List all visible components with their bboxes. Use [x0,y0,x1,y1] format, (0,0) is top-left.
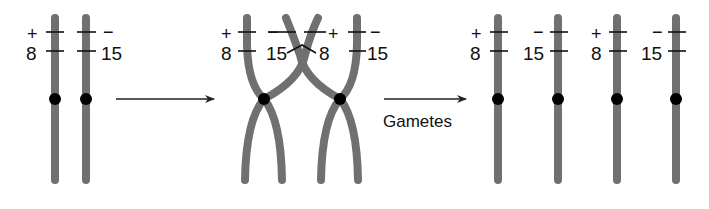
allele-sign: − [268,22,279,42]
centromere-icon [258,93,270,105]
centromere-icon [670,93,682,105]
stage1-homologous-pair: + 8 − 15 [26,18,122,180]
diagram-canvas: + 8 − 15 [0,0,709,209]
locus-label: 8 [470,43,481,64]
allele-sign: + [27,24,38,44]
gamete-chromosome-1: + 8 [470,18,508,180]
locus-label: 15 [367,43,388,64]
allele-sign: − [103,22,114,42]
allele-sign: − [370,22,381,42]
locus-label: 15 [101,43,122,64]
gamete-chromosome-4: − 15 [641,18,686,180]
locus-label: 8 [591,43,602,64]
chromosome-1: + 8 [26,18,64,180]
stage3-gametes: + 8 − 15 + 8 − 15 [470,18,686,180]
allele-sign: + [221,24,232,44]
gamete-chromosome-2: − 15 [523,18,568,180]
locus-label: 8 [26,43,37,64]
centromere-icon [80,93,92,105]
allele-sign: + [591,24,602,44]
arrow-2: Gametes [383,99,466,131]
stage2-crossing-over: + 8 − 15 + 8 − 15 [221,18,388,180]
allele-sign: − [533,22,544,42]
allele-sign: + [471,24,482,44]
locus-label: 8 [221,43,232,64]
centromere-icon [492,93,504,105]
centromere-icon [49,93,61,105]
gamete-chromosome-3: + 8 [591,18,627,180]
chromosome-2: − 15 [77,18,122,180]
allele-sign: − [652,22,663,42]
centromere-icon [611,93,623,105]
locus-label: 8 [319,43,330,64]
locus-label: 15 [641,43,662,64]
allele-sign: + [328,24,339,44]
locus-label: 15 [523,43,544,64]
centromere-icon [552,93,564,105]
gametes-label: Gametes [383,112,452,131]
locus-label: 15 [266,43,287,64]
centromere-icon [334,93,346,105]
